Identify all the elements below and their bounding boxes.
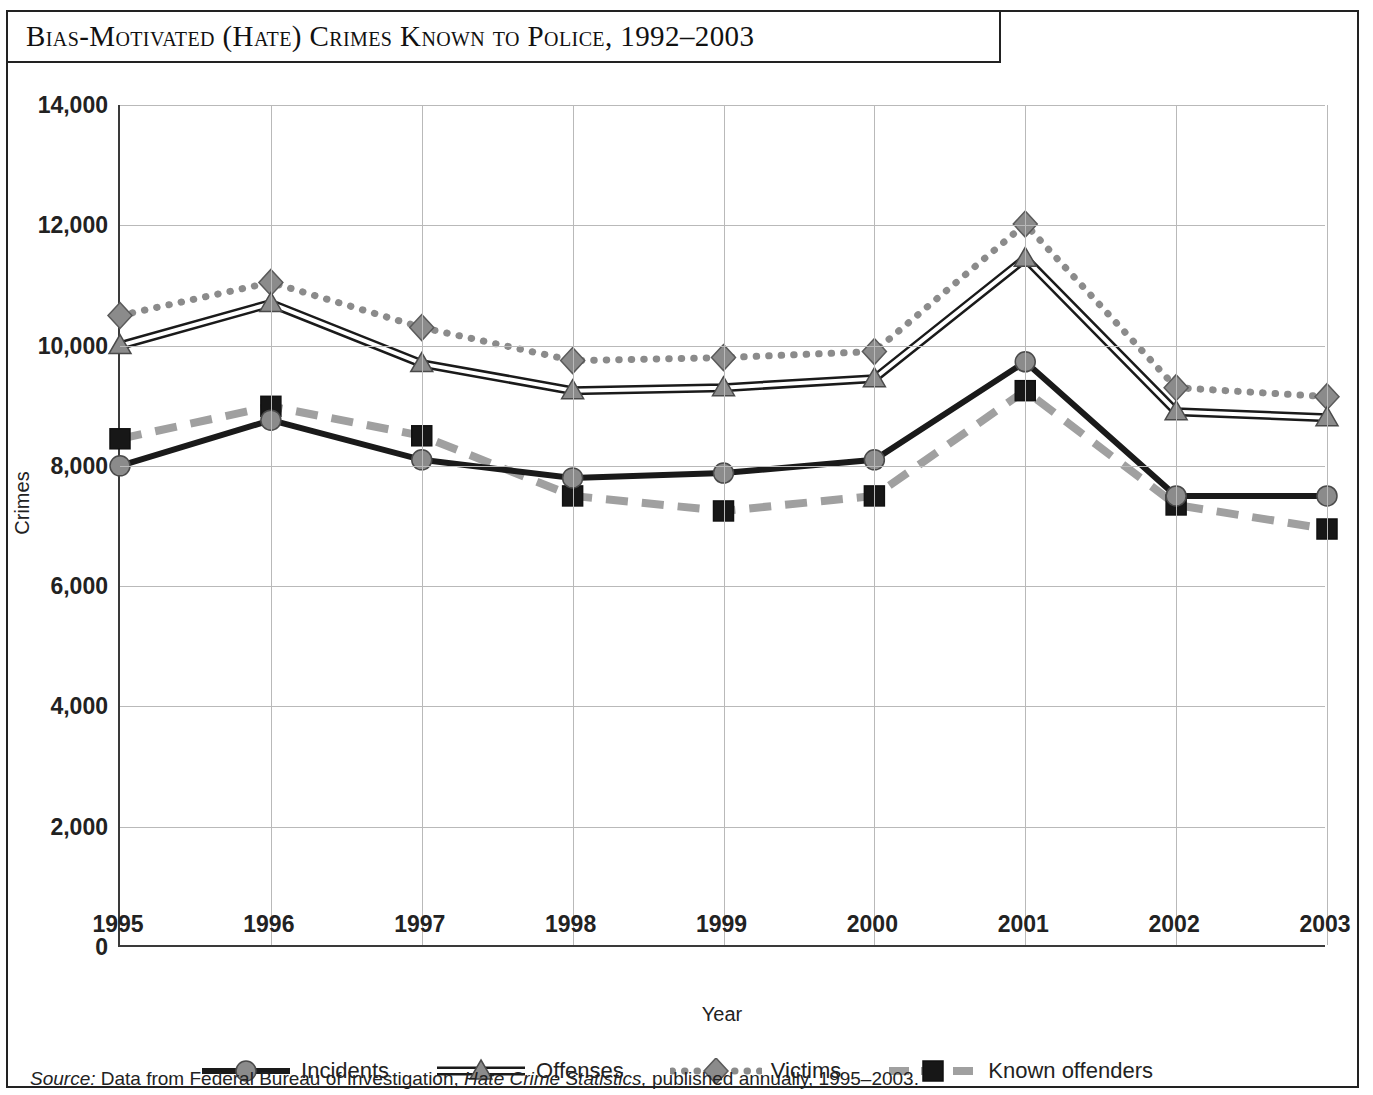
figure-page: Bias-Motivated (Hate) Crimes Known to Po… <box>0 0 1373 1095</box>
y-gridline <box>120 346 1325 347</box>
x-gridline <box>422 105 423 945</box>
x-axis-tick-label: 1997 <box>394 911 445 938</box>
source-note: Source: Data from Federal Bureau of Inve… <box>30 1068 1330 1090</box>
x-axis-tick-label: 1999 <box>696 911 747 938</box>
y-axis-tick-label: 8,000 <box>50 452 108 479</box>
x-axis-title: Year <box>702 1003 742 1026</box>
x-gridline <box>271 105 272 945</box>
y-gridline <box>120 586 1325 587</box>
x-gridline <box>1327 105 1328 945</box>
y-axis-tick-label: 10,000 <box>38 332 108 359</box>
x-gridline <box>1025 105 1026 945</box>
x-axis-tick-label: 2002 <box>1149 911 1200 938</box>
y-gridline <box>120 225 1325 226</box>
plot-region <box>118 105 1325 947</box>
y-axis-tick-label: 4,000 <box>50 693 108 720</box>
x-gridline <box>874 105 875 945</box>
page-title: Bias-Motivated (Hate) Crimes Known to Po… <box>8 20 754 53</box>
y-gridline <box>120 706 1325 707</box>
source-label: Source: <box>30 1068 95 1089</box>
y-axis-tick-label: 12,000 <box>38 212 108 239</box>
y-axis-tick-label: 6,000 <box>50 573 108 600</box>
x-axis-tick-label: 2000 <box>847 911 898 938</box>
x-axis-tick-label: 2003 <box>1299 911 1350 938</box>
x-gridline <box>724 105 725 945</box>
y-axis-title: Crimes <box>11 471 34 534</box>
y-gridline <box>120 827 1325 828</box>
y-gridline <box>120 105 1325 106</box>
source-publication: Hate Crime Statistics, <box>464 1068 647 1089</box>
x-axis-tick-label: 2001 <box>998 911 1049 938</box>
x-gridline <box>1176 105 1177 945</box>
source-text-2: published annually, 1995–2003. <box>647 1068 919 1089</box>
y-gridline <box>120 466 1325 467</box>
x-gridline <box>573 105 574 945</box>
chart-area: Crimes Year IncidentsOffensesVictimsKnow… <box>0 63 1353 1078</box>
source-text-1: Data from Federal Bureau of Investigatio… <box>95 1068 464 1089</box>
x-axis-tick-label: 1996 <box>243 911 294 938</box>
y-axis-tick-label: 14,000 <box>38 92 108 119</box>
figure-title-plate: Bias-Motivated (Hate) Crimes Known to Po… <box>6 10 1001 63</box>
x-axis-tick-label: 1998 <box>545 911 596 938</box>
y-axis-tick-label: 2,000 <box>50 813 108 840</box>
x-axis-tick-label: 1995 <box>92 911 143 938</box>
